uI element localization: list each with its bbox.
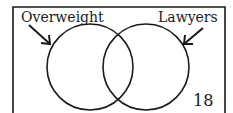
region-number: 18	[193, 91, 213, 110]
label-lawyers: Lawyers	[158, 9, 218, 25]
arrow-overweight-icon	[29, 25, 50, 44]
arrow-lawyers-icon	[184, 28, 203, 44]
label-overweight: Overweight	[21, 9, 104, 25]
venn-diagram: Overweight Lawyers 18	[0, 0, 233, 113]
circle-lawyers	[103, 24, 189, 110]
circle-overweight	[47, 24, 133, 110]
